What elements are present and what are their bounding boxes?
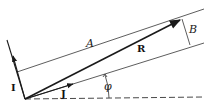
label-r: R: [137, 43, 146, 54]
vector-diagram: A B R I J φ: [0, 0, 206, 111]
label-a: A: [85, 37, 94, 50]
label-b: B: [188, 23, 197, 36]
vector-r: [25, 20, 180, 99]
label-phi: φ: [104, 80, 112, 93]
line-a: [17, 9, 204, 72]
label-j: J: [60, 88, 66, 99]
baseline-dashed: [25, 97, 204, 99]
label-i: I: [11, 82, 16, 93]
